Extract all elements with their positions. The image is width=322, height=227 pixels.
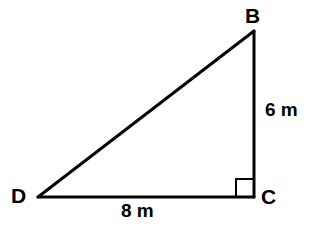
side-db-line [38,31,254,197]
side-length-label-bc: 6 m [265,100,298,119]
right-angle-square-icon [236,179,253,196]
vertex-label-c: C [261,186,276,207]
vertex-label-b: B [245,5,260,26]
geometry-figure: B C D 6 m 8 m [0,0,322,227]
vertex-label-d: D [11,185,26,206]
side-length-label-dc: 8 m [121,201,154,220]
